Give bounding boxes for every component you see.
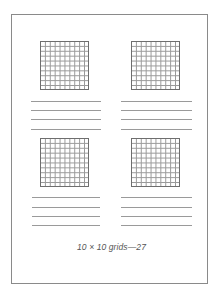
answer-line <box>121 119 192 120</box>
answer-line <box>121 129 192 130</box>
page-caption: 10 × 10 grids—27 <box>0 242 223 252</box>
answer-line <box>121 197 192 198</box>
grid-top-left <box>40 41 89 90</box>
answer-line <box>32 207 100 208</box>
grid-bottom-right <box>131 138 180 187</box>
answer-line <box>121 216 192 217</box>
answer-line <box>121 101 192 102</box>
answer-line <box>121 110 192 111</box>
answer-line <box>121 225 192 226</box>
answer-line <box>31 119 101 120</box>
answer-line <box>32 225 100 226</box>
grid-top-right <box>131 41 180 90</box>
answer-line <box>31 110 101 111</box>
answer-line <box>32 197 100 198</box>
answer-line <box>121 207 192 208</box>
answer-line <box>32 216 100 217</box>
grid-bottom-left <box>40 138 89 187</box>
answer-line <box>31 129 101 130</box>
answer-line <box>31 101 101 102</box>
